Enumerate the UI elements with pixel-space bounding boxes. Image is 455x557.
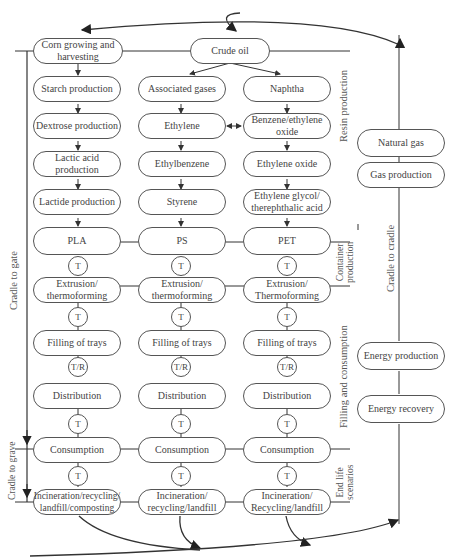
transport-marker: T	[68, 307, 88, 327]
node-dextrose-production: Dextrose production	[33, 113, 121, 139]
node-crude-oil: Crude oil	[190, 38, 270, 64]
stage-label-filling-consumption: Filling and consumption	[338, 325, 350, 428]
node-ethylene-oxide: Ethylene oxide	[243, 151, 331, 177]
node-filling-ps: Filling of trays	[138, 330, 226, 356]
node-distribution-pla: Distribution	[33, 383, 121, 409]
stage-label-resin-production: Resin production	[338, 70, 350, 142]
node-naphtha: Naphtha	[243, 76, 331, 102]
node-lactic-acid: Lactic acid production	[33, 151, 121, 177]
node-ethylbenzene: Ethylbenzene	[138, 151, 226, 177]
transport-marker: T	[171, 466, 191, 486]
node-filling-pla: Filling of trays	[33, 330, 121, 356]
node-consumption-ps: Consumption	[138, 437, 226, 463]
node-end-of-life-pet: Incineration/ Recycling/landfill	[243, 489, 331, 515]
node-filling-pet: Filling of trays	[243, 330, 331, 356]
node-end-of-life-pla: Incineration/recycling/ landfill/compost…	[33, 489, 121, 515]
node-energy-recovery: Energy recovery	[357, 395, 445, 423]
transport-marker: T	[277, 466, 297, 486]
node-energy-production: Energy production	[357, 342, 445, 370]
node-associated-gases: Associated gases	[138, 76, 226, 102]
transport-marker: T	[171, 414, 191, 434]
node-ps: PS	[138, 227, 226, 255]
node-pet: PET	[243, 227, 331, 255]
transport-marker: T	[68, 466, 88, 486]
transport-recycling-marker: T/R	[68, 357, 88, 377]
boundary-label-cradle-to-gate: Cradle to gate	[8, 251, 20, 310]
transport-marker: T	[68, 414, 88, 434]
stage-label-container-production: Container production	[335, 242, 355, 283]
node-consumption-pla: Consumption	[33, 437, 121, 463]
boundary-label-cradle-to-grave: Cradle to grave	[6, 441, 18, 500]
node-gas-production: Gas production	[357, 162, 445, 188]
node-ethylene-glycol: Ethylene glycol/ therephthalic acid	[243, 189, 331, 215]
node-end-of-life-ps: Incineration/ recycling/landfill	[138, 489, 226, 515]
node-consumption-pet: Consumption	[243, 437, 331, 463]
node-extrusion-pet: Extrusion/ Thermoforming	[243, 277, 331, 303]
node-extrusion-pla: Extrusion/ thermoforming	[33, 277, 121, 303]
transport-recycling-marker: T/R	[277, 357, 297, 377]
transport-marker: T	[277, 256, 297, 276]
node-distribution-ps: Distribution	[138, 383, 226, 409]
node-ethylene: Ethylene	[138, 113, 226, 139]
transport-marker: T	[68, 256, 88, 276]
transport-marker: T	[171, 307, 191, 327]
node-natural-gas: Natural gas	[357, 129, 445, 157]
transport-marker: T	[277, 414, 297, 434]
node-benzene-ethylene-oxide: Benzene/ethylene oxide	[243, 113, 331, 139]
node-extrusion-ps: Extrusion/ thermoforming	[138, 277, 226, 303]
node-lactide-production: Lactide production	[33, 189, 121, 215]
node-starch-production: Starch production	[33, 76, 121, 102]
node-distribution-pet: Distribution	[243, 383, 331, 409]
transport-marker: T	[171, 256, 191, 276]
transport-recycling-marker: T/R	[171, 357, 191, 377]
boundary-label-cradle-to-cradle: Cradle to cradle	[385, 225, 397, 292]
node-styrene: Styrene	[138, 189, 226, 215]
stage-label-end-life: End life scenarios	[335, 465, 355, 500]
transport-marker: T	[277, 307, 297, 327]
node-pla: PLA	[33, 227, 121, 255]
node-corn-growing: Corn growing and harvesting	[33, 38, 123, 64]
